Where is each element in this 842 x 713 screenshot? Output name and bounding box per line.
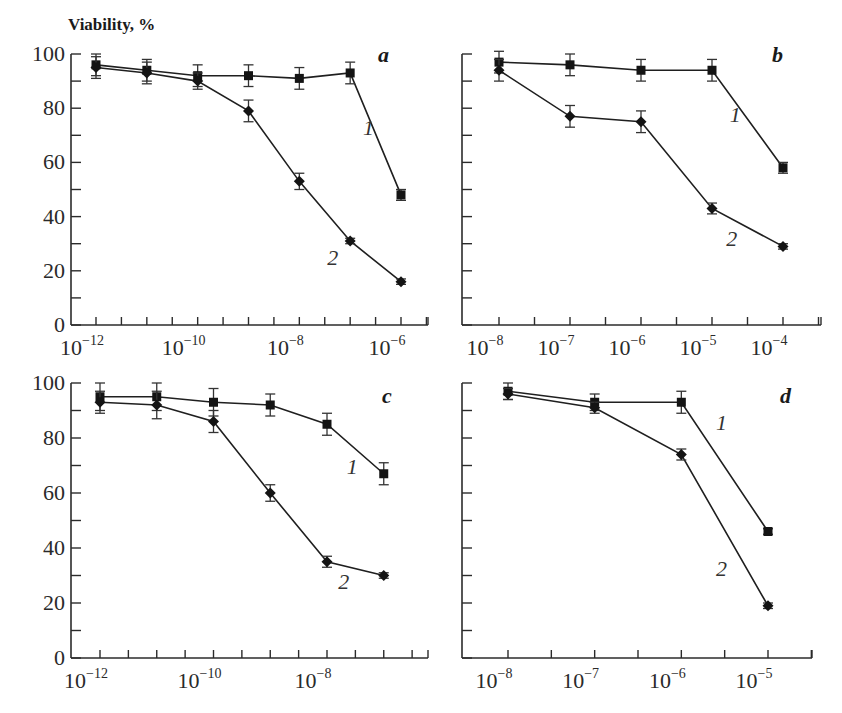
series-line: [499, 70, 783, 246]
data-point-diamond: [243, 105, 254, 116]
data-point-square: [244, 71, 253, 80]
x-tick-base: 10: [680, 335, 702, 360]
data-point-diamond: [565, 111, 576, 122]
x-tick-base: 10: [64, 668, 86, 693]
data-point-diamond: [676, 449, 687, 460]
series-2: 2: [95, 391, 390, 594]
y-tick-label: 80: [43, 425, 65, 450]
x-tick-base: 10: [476, 668, 498, 693]
x-tick-exponent: −8: [489, 333, 504, 348]
x-tick-label: 10−7: [562, 666, 599, 693]
x-tick-exponent: −10: [200, 666, 222, 681]
x-tick-exponent: −6: [671, 666, 686, 681]
x-tick-base: 10: [162, 335, 184, 360]
x-tick-exponent: −12: [86, 666, 108, 681]
panel-letter: d: [780, 383, 792, 408]
panel-b: 10−810−710−610−510−4b12: [462, 42, 821, 360]
x-tick-exponent: −8: [317, 666, 332, 681]
x-tick-label: 10−6: [369, 333, 406, 360]
x-tick-label: 10−10: [162, 333, 206, 360]
panel-letter: b: [772, 42, 783, 67]
x-tick-exponent: −12: [82, 333, 104, 348]
x-tick-base: 10: [267, 335, 289, 360]
series-line: [100, 397, 384, 474]
series-line: [508, 391, 768, 531]
x-tick-label: 10−8: [267, 333, 304, 360]
x-tick-exponent: −8: [289, 333, 304, 348]
data-point-diamond: [763, 600, 774, 611]
series-2: 2: [503, 389, 774, 612]
x-tick-label: 10−5: [680, 333, 717, 360]
x-tick-base: 10: [751, 335, 773, 360]
x-tick-exponent: −6: [631, 333, 646, 348]
data-point-square: [764, 527, 773, 536]
x-tick-base: 10: [538, 335, 560, 360]
series-line: [100, 402, 384, 575]
x-tick-label: 10−7: [538, 333, 575, 360]
x-tick-exponent: −7: [560, 333, 575, 348]
data-point-diamond: [778, 241, 789, 252]
series-label: 2: [338, 569, 349, 594]
viability-figure: Viability, % 02040608010010−1210−1010−81…: [0, 0, 842, 713]
x-tick-base: 10: [178, 668, 200, 693]
y-tick-label: 40: [43, 535, 65, 560]
x-tick-base: 10: [649, 668, 671, 693]
panel-letter: c: [382, 383, 392, 408]
series-label: 1: [363, 115, 374, 140]
data-point-square: [677, 398, 686, 407]
y-tick-label: 100: [32, 41, 65, 66]
data-point-square: [209, 398, 218, 407]
x-tick-label: 10−4: [751, 333, 788, 360]
x-tick-label: 10−5: [736, 666, 773, 693]
series-label: 1: [716, 410, 727, 435]
x-tick-label: 10−8: [476, 666, 513, 693]
series-label: 2: [726, 226, 737, 251]
x-tick-label: 10−6: [609, 333, 646, 360]
series-label: 1: [730, 102, 741, 127]
x-tick-label: 10−8: [467, 333, 504, 360]
x-tick-label: 10−12: [60, 333, 104, 360]
x-tick-base: 10: [295, 668, 317, 693]
y-tick-label: 0: [54, 312, 65, 337]
y-tick-label: 80: [43, 95, 65, 120]
x-tick-label: 10−8: [295, 666, 332, 693]
x-tick-base: 10: [736, 668, 758, 693]
x-tick-label: 10−6: [649, 666, 686, 693]
data-point-square: [379, 469, 388, 478]
x-tick-exponent: −5: [702, 333, 717, 348]
y-tick-label: 60: [43, 149, 65, 174]
series-label: 1: [347, 454, 358, 479]
y-tick-label: 0: [54, 645, 65, 670]
x-tick-base: 10: [609, 335, 631, 360]
y-tick-label: 20: [43, 258, 65, 283]
data-point-square: [566, 60, 575, 69]
x-tick-exponent: −5: [758, 666, 773, 681]
data-point-square: [397, 190, 406, 199]
series-2: 2: [91, 57, 407, 287]
x-tick-base: 10: [467, 335, 489, 360]
panel-letter: a: [378, 42, 389, 67]
series-1: 1: [503, 383, 773, 536]
data-point-square: [266, 401, 275, 410]
y-tick-label: 60: [43, 480, 65, 505]
x-tick-exponent: −6: [391, 333, 406, 348]
data-point-square: [637, 66, 646, 75]
x-tick-base: 10: [369, 335, 391, 360]
series-label: 2: [716, 556, 727, 581]
series-label: 2: [327, 245, 338, 270]
x-tick-label: 10−12: [64, 666, 108, 693]
x-tick-base: 10: [562, 668, 584, 693]
data-point-square: [708, 66, 717, 75]
data-point-square: [295, 74, 304, 83]
x-tick-exponent: −8: [498, 666, 513, 681]
y-axis-label: Viability, %: [68, 15, 155, 34]
y-tick-label: 100: [32, 370, 65, 395]
data-point-square: [779, 163, 788, 172]
data-point-diamond: [378, 570, 389, 581]
x-tick-exponent: −4: [773, 333, 788, 348]
series-1: 1: [91, 54, 406, 200]
panel-a: 02040608010010−1210−1010−810−6a12: [32, 41, 428, 360]
y-tick-label: 20: [43, 590, 65, 615]
panel-d: 10−810−710−610−5d12: [462, 383, 812, 693]
series-2: 2: [494, 59, 789, 251]
